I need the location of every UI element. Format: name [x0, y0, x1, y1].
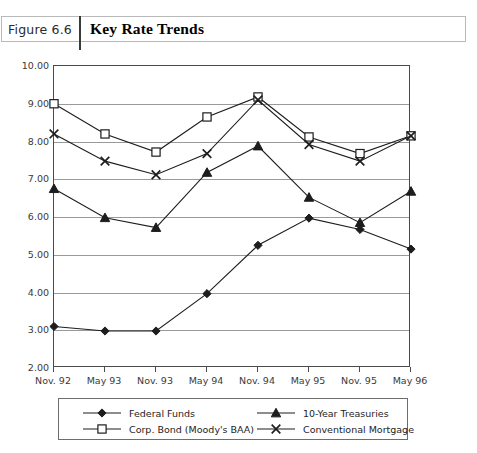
legend-item: Corp. Bond (Moody's BAA) [81, 422, 254, 436]
figure-number: Figure 6.6 [2, 17, 79, 41]
y-tick-label: 9.00 [1, 97, 49, 108]
legend-marker-filled-diamond-icon [81, 406, 123, 420]
x-tick-label: May 96 [393, 375, 428, 386]
series-1 [50, 214, 415, 335]
y-tick-label: 2.00 [1, 362, 49, 373]
legend-item: Federal Funds [81, 406, 195, 420]
figure-title: Key Rate Trends [81, 17, 204, 41]
x-tick-label: May 94 [189, 375, 224, 386]
y-tick-label: 3.00 [1, 324, 49, 335]
y-tick-label: 8.00 [1, 135, 49, 146]
x-tick-label: Nov. 95 [341, 375, 377, 386]
legend-label: Federal Funds [123, 408, 195, 419]
x-tick-mark [206, 367, 207, 372]
x-tick-mark [410, 367, 411, 372]
x-tick-mark [104, 367, 105, 372]
chart-legend: Federal FundsCorp. Bond (Moody's BAA)10-… [58, 398, 408, 440]
x-tick-mark [53, 367, 54, 372]
x-tick-mark [155, 367, 156, 372]
series-layer [54, 66, 411, 368]
x-tick-label: May 93 [87, 375, 122, 386]
y-tick-label: 10.00 [1, 60, 49, 71]
plot-area [53, 65, 410, 367]
legend-item: Conventional Mortgage [255, 422, 414, 436]
legend-marker-cross-x-icon [255, 422, 297, 436]
chart-container: 2.003.004.005.006.007.008.009.0010.00 No… [0, 48, 477, 448]
x-tick-mark [359, 367, 360, 372]
y-tick-label: 6.00 [1, 211, 49, 222]
x-tick-mark [308, 367, 309, 372]
legend-label: 10-Year Treasuries [297, 408, 389, 419]
figure-caption-bar: Figure 6.6 Key Rate Trends [1, 16, 466, 42]
legend-marker-open-square-icon [81, 422, 123, 436]
x-tick-label: May 95 [291, 375, 326, 386]
y-tick-label: 5.00 [1, 248, 49, 259]
legend-label: Conventional Mortgage [297, 424, 414, 435]
legend-label: Corp. Bond (Moody's BAA) [123, 424, 254, 435]
series-2 [50, 93, 415, 158]
legend-marker-filled-triangle-icon [255, 406, 297, 420]
x-tick-label: Nov. 92 [35, 375, 71, 386]
legend-item: 10-Year Treasuries [255, 406, 389, 420]
y-tick-label: 7.00 [1, 173, 49, 184]
x-tick-label: Nov. 94 [239, 375, 275, 386]
y-tick-label: 4.00 [1, 286, 49, 297]
x-tick-mark [257, 367, 258, 372]
x-tick-label: Nov. 93 [137, 375, 173, 386]
